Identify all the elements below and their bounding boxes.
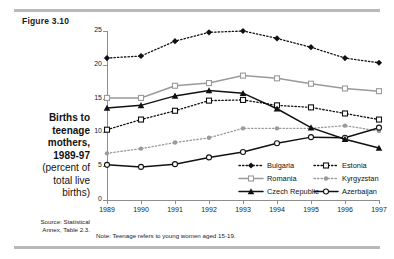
marker-filled-dot <box>105 151 109 155</box>
marker-open-square <box>343 86 348 91</box>
legend-row: Czech RepublicAzerbaijan <box>238 185 388 198</box>
x-tick-label-2: 1991 <box>158 206 192 213</box>
marker-open-square <box>309 105 314 110</box>
marker-open-circle <box>324 189 329 194</box>
legend-key-icon <box>313 186 339 197</box>
marker-open-square <box>324 163 329 168</box>
marker-open-square <box>377 89 382 94</box>
marker-filled-dot <box>173 140 177 144</box>
marker-filled-diamond <box>104 55 110 61</box>
legend-key-icon <box>238 173 264 184</box>
marker-open-circle <box>309 135 314 140</box>
marker-filled-diamond <box>240 28 246 34</box>
legend-label: Romania <box>264 174 297 183</box>
marker-filled-diamond <box>248 162 254 168</box>
caption-line-3: mothers, <box>6 137 90 150</box>
legend-label: Kyrgyzstan <box>339 174 379 183</box>
marker-open-square <box>173 83 178 88</box>
series-bulgaria <box>104 28 382 66</box>
marker-open-square <box>275 76 280 81</box>
marker-filled-dot <box>275 126 279 130</box>
legend-label: Azerbaijan <box>339 187 377 196</box>
x-tick-label-0: 1989 <box>90 206 124 213</box>
marker-open-circle <box>275 141 280 146</box>
marker-filled-diamond <box>342 55 348 61</box>
legend-row: RomaniaKyrgyzstan <box>238 172 388 185</box>
marker-filled-diamond <box>376 60 382 66</box>
series-romania <box>105 73 382 100</box>
legend-key-icon <box>238 186 264 197</box>
chart-legend: BulgariaEstoniaRomaniaKyrgyzstanCzech Re… <box>238 159 388 198</box>
legend-item-azerbaijan[interactable]: Azerbaijan <box>313 186 388 197</box>
marker-open-square <box>139 95 144 100</box>
marker-open-square <box>105 127 110 132</box>
x-tick-label-1: 1990 <box>124 206 158 213</box>
legend-label: Czech Republic <box>264 187 319 196</box>
marker-filled-diamond <box>138 53 144 59</box>
marker-filled-dot <box>207 136 211 140</box>
caption-line-6: total live <box>6 175 90 188</box>
marker-open-circle <box>377 125 382 130</box>
x-tick-label-6: 1995 <box>294 206 328 213</box>
marker-open-square <box>249 176 254 181</box>
marker-open-square <box>241 73 246 78</box>
marker-filled-diamond <box>172 38 178 44</box>
legend-label: Estonia <box>339 161 367 170</box>
legend-item-estonia[interactable]: Estonia <box>313 160 388 171</box>
marker-open-square <box>207 81 212 86</box>
marker-open-circle <box>241 150 246 155</box>
marker-filled-triangle <box>308 124 315 130</box>
legend-row: BulgariaEstonia <box>238 159 388 172</box>
figure-container: Figure 3.10 Births to teenage mothers, 1… <box>0 0 394 259</box>
legend-item-kyrgyzstan[interactable]: Kyrgyzstan <box>313 173 388 184</box>
marker-open-square <box>377 117 382 122</box>
marker-open-circle <box>173 162 178 167</box>
marker-open-square <box>241 97 246 102</box>
marker-open-square <box>139 117 144 122</box>
x-tick-label-3: 1992 <box>192 206 226 213</box>
marker-filled-dot <box>139 146 143 150</box>
marker-filled-diamond <box>274 35 280 41</box>
top-divider <box>14 9 380 12</box>
caption-line-4: 1989-97 <box>6 150 90 163</box>
marker-open-square <box>173 108 178 113</box>
caption-line-5: (percent of <box>6 162 90 175</box>
marker-open-square <box>105 95 110 100</box>
figure-number: Figure 3.10 <box>22 16 69 26</box>
marker-open-circle <box>105 162 110 167</box>
legend-item-romania[interactable]: Romania <box>238 173 313 184</box>
marker-open-square <box>343 111 348 116</box>
marker-open-square <box>207 98 212 103</box>
marker-filled-dot <box>324 176 328 180</box>
legend-key-icon <box>313 160 339 171</box>
marker-filled-diamond <box>308 44 314 50</box>
marker-filled-dot <box>343 123 347 127</box>
x-tick-label-4: 1993 <box>226 206 260 213</box>
caption-line-7: births) <box>6 187 90 200</box>
legend-item-czech-republic[interactable]: Czech Republic <box>238 186 313 197</box>
x-tick-label-8: 1997 <box>362 206 394 213</box>
source-line-1: Source: Statistical <box>6 218 90 226</box>
caption-line-2: teenage <box>6 125 90 138</box>
x-tick-label-5: 1994 <box>260 206 294 213</box>
legend-key-icon <box>313 173 339 184</box>
legend-key-icon <box>238 160 264 171</box>
legend-item-bulgaria[interactable]: Bulgaria <box>238 160 313 171</box>
x-tick-label-7: 1996 <box>328 206 362 213</box>
marker-filled-dot <box>241 126 245 130</box>
legend-label: Bulgaria <box>264 161 294 170</box>
bottom-divider <box>14 246 380 249</box>
marker-open-circle <box>139 164 144 169</box>
caption-line-1: Births to <box>6 112 90 125</box>
figure-note: Note: Teenage refers to young women aged… <box>96 232 236 239</box>
marker-filled-diamond <box>206 29 212 35</box>
source-line-2: Annex, Table 2.3. <box>6 226 90 234</box>
figure-caption: Births to teenage mothers, 1989-97 (perc… <box>6 112 90 200</box>
source-note: Source: Statistical Annex, Table 2.3. <box>6 218 90 233</box>
marker-open-square <box>309 81 314 86</box>
marker-open-circle <box>207 155 212 160</box>
